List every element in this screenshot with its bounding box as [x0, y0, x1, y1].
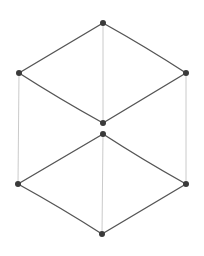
lattice-diagram [0, 0, 204, 256]
node-upper-right [183, 70, 189, 76]
node-lower-top [100, 131, 106, 137]
edge-upper-left-lower-left [18, 73, 19, 184]
node-lower-right [183, 181, 189, 187]
edge-upper-left-upper-bottom [19, 73, 103, 123]
edge-lower-right-bottom [102, 184, 186, 234]
node-top [100, 20, 106, 26]
node-upper-bottom [100, 120, 106, 126]
node-lower-left [15, 181, 21, 187]
edge-upper-right-upper-bottom [103, 73, 186, 123]
node-upper-left [16, 70, 22, 76]
edges-group [18, 23, 186, 234]
node-bottom [99, 231, 105, 237]
edge-lower-top-lower-left [18, 134, 103, 184]
edge-lower-top-bottom [102, 134, 103, 234]
edge-lower-left-bottom [18, 184, 102, 234]
edge-lower-top-lower-right [103, 134, 186, 184]
edge-top-upper-left [19, 23, 103, 73]
edge-top-upper-right [103, 23, 186, 73]
